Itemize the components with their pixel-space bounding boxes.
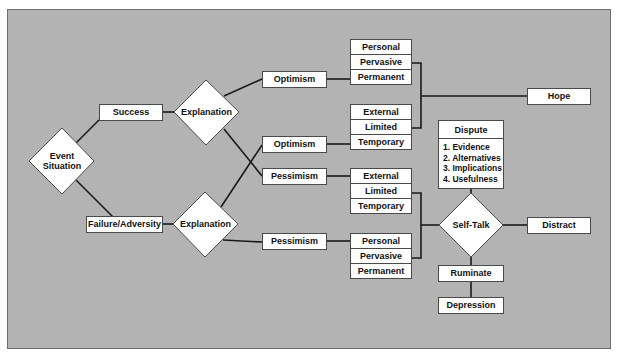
stack-cell: Permanent — [350, 69, 412, 85]
pessimism-box-1: Pessimism — [262, 168, 327, 185]
attribute-stack-4: Personal Pervasive Permanent — [350, 233, 412, 279]
event-situation-label: Event Situation — [30, 148, 94, 174]
depression-box: Depression — [438, 297, 504, 314]
stack-cell: Temporary — [350, 134, 412, 150]
stack-cell: Personal — [350, 233, 412, 249]
stack-cell: External — [350, 168, 412, 184]
success-box: Success — [99, 104, 163, 121]
stack-cell: Limited — [350, 183, 412, 199]
dispute-list: 1. Evidence 2. Alternatives 3. Implicati… — [439, 139, 503, 188]
dispute-item: 4. Usefulness — [443, 174, 503, 185]
event-label-line1: Event — [50, 151, 75, 161]
optimism-box-1: Optimism — [262, 71, 327, 88]
stack-cell: Temporary — [350, 198, 412, 214]
stack-cell: Personal — [350, 39, 412, 55]
self-talk-label: Self-Talk — [439, 217, 503, 233]
attribute-stack-2: External Limited Temporary — [350, 104, 412, 150]
attribute-stack-3: External Limited Temporary — [350, 168, 412, 214]
failure-adversity-box: Failure/Adversity — [86, 216, 163, 233]
stack-cell: External — [350, 104, 412, 120]
dispute-item: 2. Alternatives — [443, 153, 503, 164]
dispute-title: Dispute — [439, 121, 503, 139]
stack-cell: Pervasive — [350, 54, 412, 70]
attribute-stack-1: Personal Pervasive Permanent — [350, 39, 412, 85]
dispute-item: 1. Evidence — [443, 142, 503, 153]
stack-cell: Permanent — [350, 263, 412, 279]
hope-box: Hope — [527, 88, 591, 105]
optimism-box-2: Optimism — [262, 136, 327, 153]
stack-cell: Limited — [350, 119, 412, 135]
stack-cell: Pervasive — [350, 248, 412, 264]
pessimism-box-2: Pessimism — [262, 233, 327, 250]
explanation-top-label: Explanation — [174, 104, 239, 120]
distract-box: Distract — [527, 217, 591, 234]
explanation-bottom-label: Explanation — [173, 216, 238, 232]
ruminate-box: Ruminate — [438, 265, 504, 282]
event-label-line2: Situation — [43, 161, 82, 171]
dispute-item: 3. Implications — [443, 163, 503, 174]
dispute-box: Dispute 1. Evidence 2. Alternatives 3. I… — [438, 120, 504, 189]
